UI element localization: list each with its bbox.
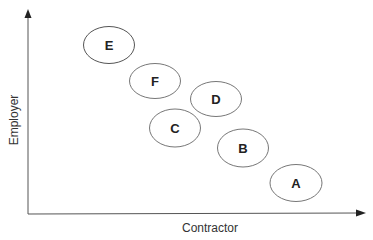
x-axis [28, 210, 366, 217]
y-axis-arrow-icon [25, 9, 32, 18]
node-label: F [151, 74, 159, 89]
node-a: A [270, 165, 322, 202]
node-label: A [291, 176, 301, 191]
y-axis [25, 9, 32, 214]
node-label: B [238, 141, 247, 156]
node-c: C [150, 109, 201, 147]
node-b: B [218, 129, 269, 167]
node-label: D [211, 92, 220, 107]
x-axis-label: Contractor [182, 221, 238, 235]
node-d: D [191, 82, 242, 117]
node-e: E [84, 27, 135, 64]
node-label: E [105, 38, 114, 53]
node-label: C [170, 121, 180, 136]
diagram-canvas: Contractor Employer E F D C B A [0, 0, 373, 240]
node-f: F [130, 64, 181, 99]
y-axis-label: Employer [7, 95, 21, 146]
x-axis-arrow-icon [356, 210, 366, 217]
